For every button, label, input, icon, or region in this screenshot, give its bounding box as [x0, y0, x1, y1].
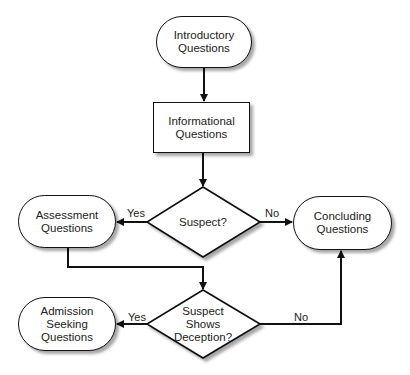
node-concluding-questions: Concluding Questions: [293, 196, 392, 250]
node-label: Introductory Questions: [174, 29, 235, 55]
node-suspect-decision: Suspect?: [160, 205, 246, 239]
edge-label-deception-yes: Yes: [128, 311, 146, 323]
node-assessment-questions: Assessment Questions: [18, 195, 116, 248]
node-informational-questions: Informational Questions: [153, 102, 250, 153]
node-label: Admission Seeking Questions: [40, 305, 93, 344]
node-label: Informational Questions: [168, 115, 234, 141]
node-label: Concluding Questions: [314, 210, 372, 236]
node-introductory-questions: Introductory Questions: [156, 16, 252, 68]
edge-label-suspect-no: No: [265, 207, 279, 219]
node-admission-seeking-questions: Admission Seeking Questions: [18, 297, 116, 351]
edge-assessment-deception: [68, 248, 203, 289]
node-label: Assessment Questions: [36, 209, 99, 235]
edge-label-deception-no: No: [294, 311, 308, 323]
node-label: Suspect?: [179, 216, 227, 229]
edge-label-suspect-yes: Yes: [127, 207, 145, 219]
node-deception-decision: Suspect Shows Deception?: [160, 302, 246, 346]
node-label: Suspect Shows Deception?: [174, 305, 232, 344]
